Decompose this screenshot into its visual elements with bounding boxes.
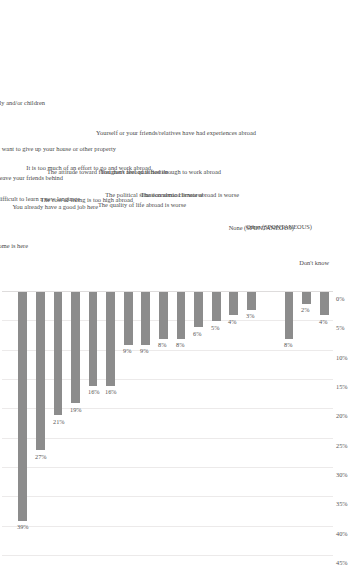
gridline xyxy=(2,496,333,497)
category-label: You don't feel qualified enough to work … xyxy=(100,168,221,175)
bar[interactable] xyxy=(89,292,98,386)
y-axis-tick-label: 20% xyxy=(336,412,348,419)
bar-value-label: 16% xyxy=(88,388,100,395)
bar[interactable] xyxy=(106,292,115,386)
bar-value-label: 3% xyxy=(246,312,254,319)
gridline xyxy=(2,526,333,527)
bar[interactable] xyxy=(159,292,168,339)
bar-value-label: 2% xyxy=(301,306,309,313)
category-label: You would not want to impose big changes… xyxy=(0,99,45,106)
y-axis-tick-label: 0% xyxy=(336,295,344,302)
category-label: Your home is here xyxy=(0,242,28,249)
bar-value-label: 27% xyxy=(35,453,47,460)
gridline xyxy=(2,379,333,380)
bar[interactable] xyxy=(18,292,27,521)
y-axis-tick-label: 15% xyxy=(336,383,348,390)
bar-value-label: 39% xyxy=(17,523,29,530)
y-axis-tick-label: 25% xyxy=(336,442,348,449)
gridline xyxy=(2,408,333,409)
bar-value-label: 8% xyxy=(158,341,166,348)
bar[interactable] xyxy=(36,292,45,450)
bar[interactable] xyxy=(71,292,80,403)
bar[interactable] xyxy=(212,292,221,321)
bar[interactable] xyxy=(54,292,63,415)
bar-value-label: 21% xyxy=(53,418,65,425)
bar-value-label: 5% xyxy=(211,324,219,331)
bar[interactable] xyxy=(247,292,256,310)
bar[interactable] xyxy=(285,292,294,339)
bar[interactable] xyxy=(320,292,329,315)
bar-value-label: 16% xyxy=(105,388,117,395)
bar[interactable] xyxy=(177,292,186,339)
category-label: Yourself or your friends/relatives have … xyxy=(96,129,256,136)
bar-value-label: 8% xyxy=(284,341,292,348)
gridline xyxy=(2,350,333,351)
gridline xyxy=(2,438,333,439)
y-axis-tick-label: 40% xyxy=(336,530,348,537)
gridline xyxy=(2,467,333,468)
category-label: The economic climate abroad is worse xyxy=(140,191,238,198)
bar-value-label: 4% xyxy=(319,318,327,325)
category-label: Other (SPONTANEOUS) xyxy=(245,223,311,230)
bar-value-label: 8% xyxy=(176,341,184,348)
bar-value-label: 9% xyxy=(123,347,131,354)
y-axis-tick-label: 10% xyxy=(336,354,348,361)
bar-value-label: 4% xyxy=(228,318,236,325)
bar[interactable] xyxy=(141,292,150,345)
y-axis-tick-label: 5% xyxy=(336,324,344,331)
y-axis-tick-label: 35% xyxy=(336,500,348,507)
bar-value-label: 9% xyxy=(140,347,148,354)
bar-value-label: 19% xyxy=(70,406,82,413)
bar[interactable] xyxy=(302,292,311,304)
category-label: You do not want to give up your house or… xyxy=(0,145,116,152)
category-label: Don't know xyxy=(299,259,329,266)
bar[interactable] xyxy=(229,292,238,315)
gridline xyxy=(2,555,333,556)
category-label: You already have a good job here xyxy=(12,203,98,210)
y-axis-tick-label: 30% xyxy=(336,471,348,478)
bar[interactable] xyxy=(194,292,203,327)
category-label: The quality of life abroad is worse xyxy=(98,201,186,208)
bar-value-label: 6% xyxy=(193,330,201,337)
bar[interactable] xyxy=(124,292,133,345)
y-axis-tick-label: 45% xyxy=(336,559,348,566)
